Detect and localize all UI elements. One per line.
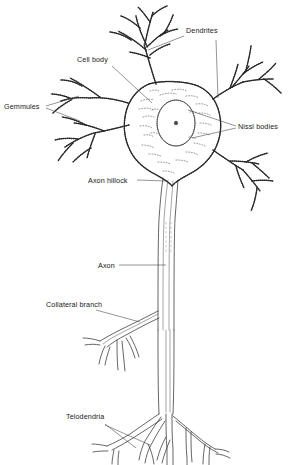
neuron-diagram-canvas: Dendrites Cell body Gemmules Nissl bodie… (0, 0, 289, 465)
neuron-diagram: Dendrites Cell body Gemmules Nissl bodie… (0, 0, 289, 465)
label-collateral-branch: Collateral branch (46, 300, 102, 309)
label-gemmules: Gemmules (4, 102, 40, 111)
label-nissl-bodies: Nissl bodies (238, 122, 278, 131)
nucleolus (174, 121, 178, 125)
label-telodendria: Telodendria (66, 412, 104, 421)
label-cell-body: Cell body (77, 55, 108, 64)
label-dendrites: Dendrites (186, 26, 218, 35)
label-axon-hillock: Axon hillock (88, 176, 128, 185)
label-axon: Axon (98, 261, 115, 270)
